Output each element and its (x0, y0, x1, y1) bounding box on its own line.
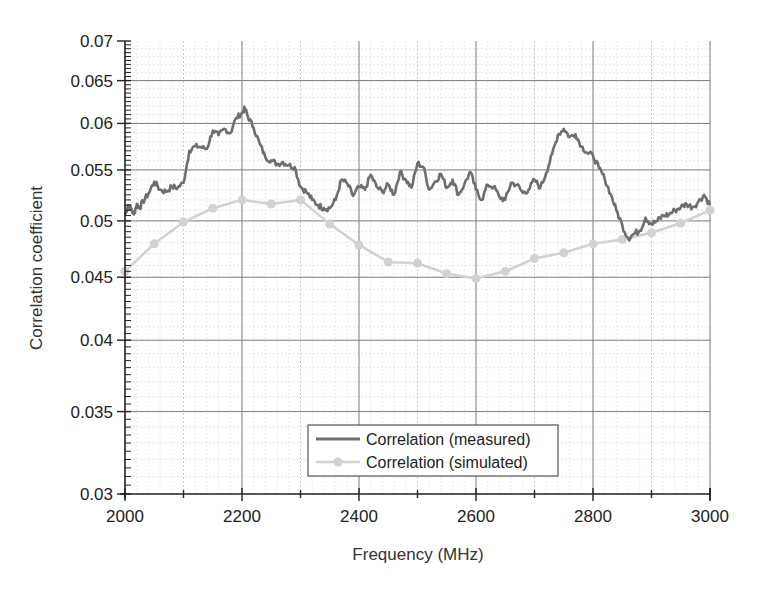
simulated-marker (676, 219, 685, 228)
y-tick-label: 0.07 (80, 32, 113, 51)
simulated-marker (530, 254, 539, 263)
simulated-marker (413, 259, 422, 268)
simulated-marker (559, 248, 568, 257)
simulated-marker (179, 217, 188, 226)
x-tick-label: 2800 (574, 507, 612, 526)
x-tick-label: 2400 (340, 507, 378, 526)
x-tick-label: 3000 (691, 507, 729, 526)
y-tick-label: 0.065 (70, 72, 113, 91)
simulated-marker (501, 267, 510, 276)
y-tick-label: 0.04 (80, 331, 113, 350)
simulated-marker (706, 206, 715, 215)
legend-measured-label: Correlation (measured) (366, 431, 531, 448)
x-tick-label: 2200 (223, 507, 261, 526)
simulated-marker (472, 274, 481, 283)
simulated-marker (589, 239, 598, 248)
x-axis-title: Frequency (MHz) (352, 545, 483, 564)
simulated-marker (355, 240, 364, 249)
y-tick-label: 0.03 (80, 485, 113, 504)
x-tick-label: 2000 (106, 507, 144, 526)
simulated-marker (384, 257, 393, 266)
simulated-marker (238, 195, 247, 204)
y-tick-label: 0.035 (70, 403, 113, 422)
simulated-marker (325, 220, 334, 229)
simulated-marker (647, 228, 656, 237)
y-tick-label: 0.045 (70, 268, 113, 287)
y-axis-title: Correlation coefficient (27, 186, 46, 350)
legend-simulated-marker-icon (334, 458, 343, 467)
simulated-marker (296, 195, 305, 204)
simulated-marker (150, 239, 159, 248)
x-tick-label: 2600 (457, 507, 495, 526)
y-tick-label: 0.05 (80, 212, 113, 231)
y-tick-label: 0.06 (80, 114, 113, 133)
simulated-marker (208, 204, 217, 213)
simulated-marker (267, 200, 276, 209)
y-axis-ticks: 0.030.0350.040.0450.050.0550.060.0650.07 (70, 32, 131, 504)
y-tick-label: 0.055 (70, 161, 113, 180)
simulated-marker (442, 269, 451, 278)
legend: Correlation (measured) Correlation (simu… (308, 425, 558, 476)
correlation-chart: 0.030.0350.040.0450.050.0550.060.0650.07… (0, 0, 758, 593)
legend-simulated-label: Correlation (simulated) (366, 454, 528, 471)
